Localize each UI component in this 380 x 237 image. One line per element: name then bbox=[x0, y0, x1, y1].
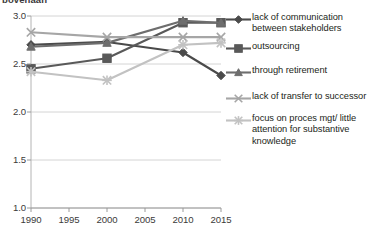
legend-item-label: lack of transfer to successor bbox=[252, 91, 366, 102]
legend-item[interactable]: through retirement bbox=[225, 65, 377, 79]
diamond-marker-icon bbox=[235, 16, 243, 24]
x-axis-tick-label: 2015 bbox=[200, 214, 242, 225]
x-axis-tick-label: 2000 bbox=[86, 214, 128, 225]
legend-marker bbox=[225, 66, 252, 79]
series-layer bbox=[26, 17, 226, 86]
legend-marker bbox=[225, 13, 252, 26]
legend-item[interactable]: outsourcing bbox=[225, 41, 377, 55]
legend-item[interactable]: focus on proces mgt/ little attention fo… bbox=[225, 113, 377, 147]
legend-item[interactable]: lack of communication between stakeholde… bbox=[225, 12, 377, 35]
legend-marker bbox=[225, 92, 252, 105]
y-axis-tick-label: 1.0 bbox=[0, 202, 26, 213]
x-axis-tick-label: 1995 bbox=[48, 214, 90, 225]
star-marker-icon bbox=[26, 67, 36, 77]
star-marker-icon bbox=[102, 76, 112, 86]
chart-legend: lack of communication between stakeholde… bbox=[225, 12, 377, 147]
legend-marker bbox=[225, 114, 252, 127]
legend-item-label: focus on proces mgt/ little attention fo… bbox=[252, 113, 377, 147]
legend-item-label: through retirement bbox=[252, 65, 327, 76]
square-marker-icon bbox=[235, 45, 243, 53]
y-axis-tick-label: 2.5 bbox=[0, 58, 26, 69]
x-axis-tick-label: 2010 bbox=[162, 214, 204, 225]
series-line bbox=[31, 32, 221, 37]
x-axis-tick-label: 1990 bbox=[10, 214, 52, 225]
page-title: bovenaan bbox=[2, 0, 47, 5]
y-axis-tick-label: 1.5 bbox=[0, 154, 26, 165]
y-axis-tick-label: 2.0 bbox=[0, 106, 26, 117]
legend-item[interactable]: lack of transfer to successor bbox=[225, 91, 377, 105]
line-chart: bovenaan 3.02.52.01.51.0 199019952000200… bbox=[0, 0, 380, 237]
chart-series bbox=[27, 28, 225, 41]
square-marker-icon bbox=[103, 54, 111, 62]
x-axis-tick-label: 2005 bbox=[124, 214, 166, 225]
star-marker-icon bbox=[178, 40, 188, 50]
legend-marker bbox=[225, 42, 252, 55]
legend-item-label: outsourcing bbox=[252, 41, 300, 52]
y-axis-tick-label: 3.0 bbox=[0, 10, 26, 21]
star-marker-icon bbox=[234, 116, 243, 125]
clipped-title-strip: bovenaan bbox=[0, 0, 380, 7]
legend-item-label: lack of communication between stakeholde… bbox=[252, 12, 377, 35]
